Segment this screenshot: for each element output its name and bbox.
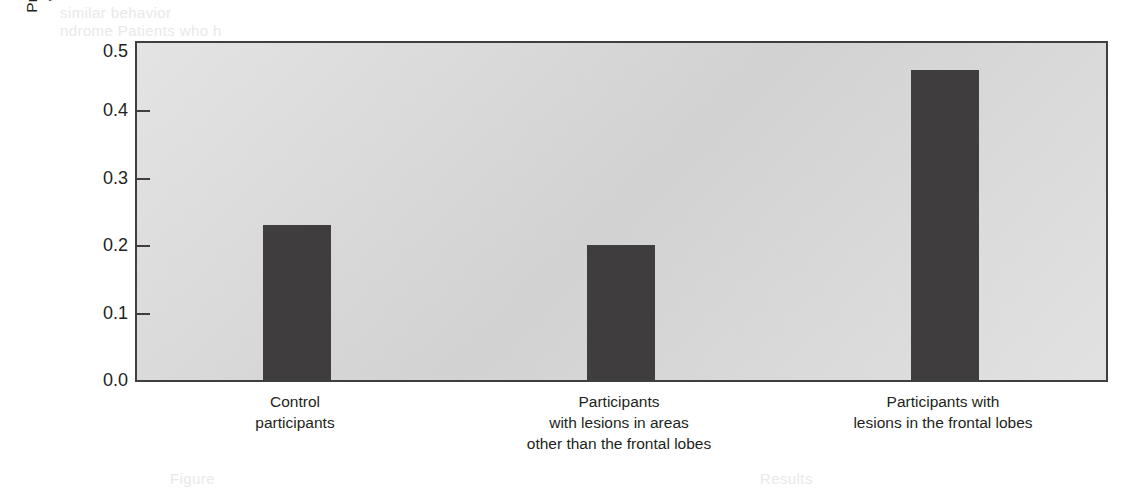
y-tick-mark-0.2: [137, 245, 150, 247]
x-label-control-participants: Control participants: [255, 392, 334, 434]
y-tick-mark-0.4: [137, 110, 150, 112]
x-label-3-line-1: Participants with: [853, 392, 1032, 413]
bar-control-participants: [263, 225, 331, 380]
x-label-lesions-frontal-lobes: Participants with lesions in the frontal…: [853, 392, 1032, 434]
y-tick-label-5: 0.5: [103, 41, 128, 62]
plot-area: [135, 41, 1108, 382]
x-label-1-line-2: participants: [255, 413, 334, 434]
x-label-lesions-other-areas: Participants with lesions in areas other…: [527, 392, 711, 454]
x-label-3-line-2: lesions in the frontal lobes: [853, 413, 1032, 434]
y-axis-title-line-1: Proportion of participants: [22, 0, 42, 13]
bar-lesions-frontal-lobes: [911, 70, 979, 380]
scan-artifact-top-line-1: similar behavior: [60, 4, 171, 21]
x-label-2-line-1: Participants: [527, 392, 711, 413]
y-tick-mark-0.1: [137, 313, 150, 315]
y-axis-title-line-2: who engaged in harm: [42, 0, 62, 1]
scan-artifact-bottom-line-1: Figure: [170, 470, 215, 487]
bar-lesions-other-areas: [587, 245, 655, 380]
y-tick-mark-0.3: [137, 178, 150, 180]
scan-artifact-top-line-2: ndrome Patients who h: [60, 22, 222, 39]
bar-chart-figure: similar behavior ndrome Patients who h F…: [0, 0, 1138, 498]
y-tick-label-4: 0.4: [103, 100, 128, 121]
y-tick-label-1: 0.1: [103, 302, 128, 323]
y-axis-tick-labels: 0.0 0.1 0.2 0.3 0.4 0.5: [78, 41, 128, 382]
x-label-1-line-1: Control: [255, 392, 334, 413]
x-label-2-line-3: other than the frontal lobes: [527, 434, 711, 455]
x-label-2-line-2: with lesions in areas: [527, 413, 711, 434]
x-axis-category-labels: Control participants Participants with l…: [135, 392, 1108, 472]
y-tick-label-2: 0.2: [103, 235, 128, 256]
y-axis-title: Proportion of participants who engaged i…: [14, 0, 70, 97]
y-tick-label-3: 0.3: [103, 167, 128, 188]
scan-artifact-bottom-line-2: Results: [760, 470, 813, 487]
y-tick-label-0: 0.0: [103, 370, 128, 391]
